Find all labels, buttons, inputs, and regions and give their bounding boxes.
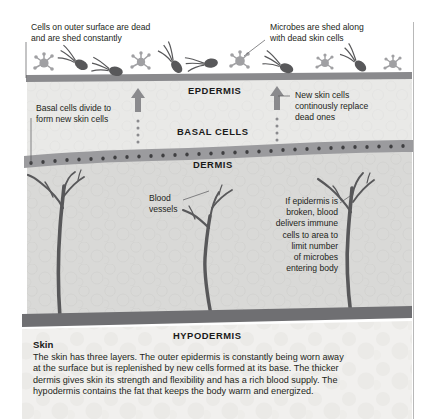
microbe-star [315, 53, 333, 69]
microbe-star [383, 54, 401, 70]
caption-body-text: The skin has three layers. The outer epi… [33, 352, 351, 398]
annotation-basal-cells-divide: Basal cells divide to form new skin cell… [36, 103, 156, 125]
annotation-cells-outer-surface: Cells on outer surface are dead and are … [31, 22, 211, 44]
skin-diagram-page: Cells on outer surface are dead and are … [0, 0, 427, 419]
annotation-blood-vessels: Blood vessels [149, 193, 199, 215]
caption-block: Skin The skin has three layers. The oute… [33, 339, 351, 398]
layer-label-dermis: DERMIS [193, 159, 233, 170]
microbe-star [229, 50, 250, 69]
shed-cells-and-microbes [33, 41, 401, 77]
microbe-star [33, 52, 54, 71]
leader-line-microbes [244, 40, 265, 56]
bacterium-flagellated [339, 43, 371, 74]
annotation-microbes-shed: Microbes are shed along with dead skin c… [270, 22, 420, 44]
bacterium-flagellated [185, 53, 219, 71]
annotation-new-skin-cells: New skin cells continously replace dead … [295, 90, 405, 124]
microbe-star [130, 51, 150, 69]
caption-heading: Skin [33, 339, 351, 351]
annotation-immune-response: If epidermis is broken, blood delivers i… [252, 196, 338, 274]
bacterium-flagellated [157, 41, 188, 75]
bacterium-flagellated [262, 51, 297, 76]
bacterium-flagellated [57, 45, 92, 72]
layer-label-basal-cells: BASAL CELLS [177, 126, 249, 137]
layer-label-epidermis: EPDERMIS [188, 85, 241, 96]
